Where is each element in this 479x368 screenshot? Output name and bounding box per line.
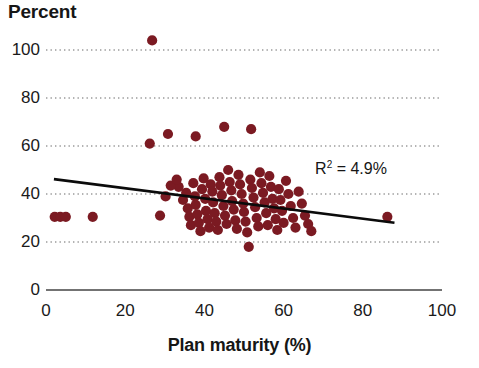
data-point (223, 165, 233, 175)
data-point (247, 183, 257, 193)
data-point (244, 242, 254, 252)
data-point (255, 167, 265, 177)
data-point (256, 178, 266, 188)
data-point (88, 212, 98, 222)
data-point (217, 190, 227, 200)
data-point (172, 175, 182, 185)
data-points (50, 35, 393, 252)
data-point (290, 223, 300, 233)
data-point (215, 181, 225, 191)
data-point (264, 171, 274, 181)
data-point (281, 176, 291, 186)
data-point (163, 129, 173, 139)
data-point (188, 178, 198, 188)
data-point (235, 179, 245, 189)
scatter-chart: Percent 020406080100 020406080100 R2 = 4… (0, 0, 479, 368)
data-point (197, 184, 207, 194)
data-point (226, 185, 236, 195)
data-point (246, 124, 256, 134)
r2-label-value: = 4.9% (332, 160, 387, 177)
data-point (294, 187, 304, 197)
data-point (283, 189, 293, 199)
data-point (279, 218, 289, 228)
x-axis-title: Plan maturity (%) (0, 335, 479, 356)
data-point (195, 226, 205, 236)
data-point (288, 213, 298, 223)
data-point (191, 131, 201, 141)
data-point (191, 200, 201, 210)
data-point (155, 211, 165, 221)
data-point (306, 226, 316, 236)
data-point (145, 139, 155, 149)
data-point (237, 189, 247, 199)
data-point (253, 221, 263, 231)
plot-area (0, 0, 479, 368)
data-point (229, 205, 239, 215)
data-point (242, 227, 252, 237)
data-point (233, 170, 243, 180)
r-squared-annotation: R2 = 4.9% (315, 159, 387, 178)
data-point (61, 212, 71, 222)
data-point (239, 207, 249, 217)
data-point (274, 184, 284, 194)
data-point (297, 199, 307, 209)
data-point (147, 35, 157, 45)
data-point (219, 122, 229, 132)
data-point (248, 193, 258, 203)
r2-label-r: R (315, 160, 327, 177)
data-point (232, 224, 242, 234)
data-point (213, 225, 223, 235)
data-point (240, 217, 250, 227)
data-point (221, 219, 231, 229)
